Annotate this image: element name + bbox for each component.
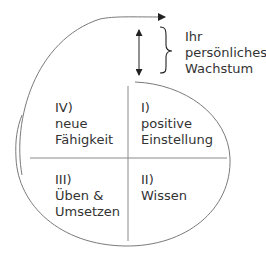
quadrant-iv-line-1: neue [55, 116, 113, 132]
growth-label: Ihr persönliches Wachstum [185, 29, 266, 77]
quadrant-i-number: I) [141, 100, 213, 116]
quadrant-iii-line-2: Umsetzen [55, 204, 120, 220]
curly-brace-icon [160, 27, 172, 73]
quadrant-ii-line-1: Wissen [141, 188, 187, 204]
quadrant-ii: II) Wissen [141, 172, 187, 204]
quadrant-iv: IV) neue Fähigkeit [55, 100, 113, 148]
quadrant-i: I) positive Einstellung [141, 100, 213, 148]
quadrant-ii-number: II) [141, 172, 187, 188]
quadrant-iii: III) Üben & Umsetzen [55, 172, 120, 220]
quadrant-iii-line-1: Üben & [55, 188, 120, 204]
growth-spiral-arrow [20, 17, 165, 175]
quadrant-iv-number: IV) [55, 100, 113, 116]
growth-label-line-3: Wachstum [185, 61, 266, 77]
growth-label-line-2: persönliches [185, 45, 266, 61]
growth-label-line-1: Ihr [185, 29, 266, 45]
quadrant-i-line-1: positive [141, 116, 213, 132]
quadrant-iv-line-2: Fähigkeit [55, 132, 113, 148]
quadrant-i-line-2: Einstellung [141, 132, 213, 148]
quadrant-iii-number: III) [55, 172, 120, 188]
